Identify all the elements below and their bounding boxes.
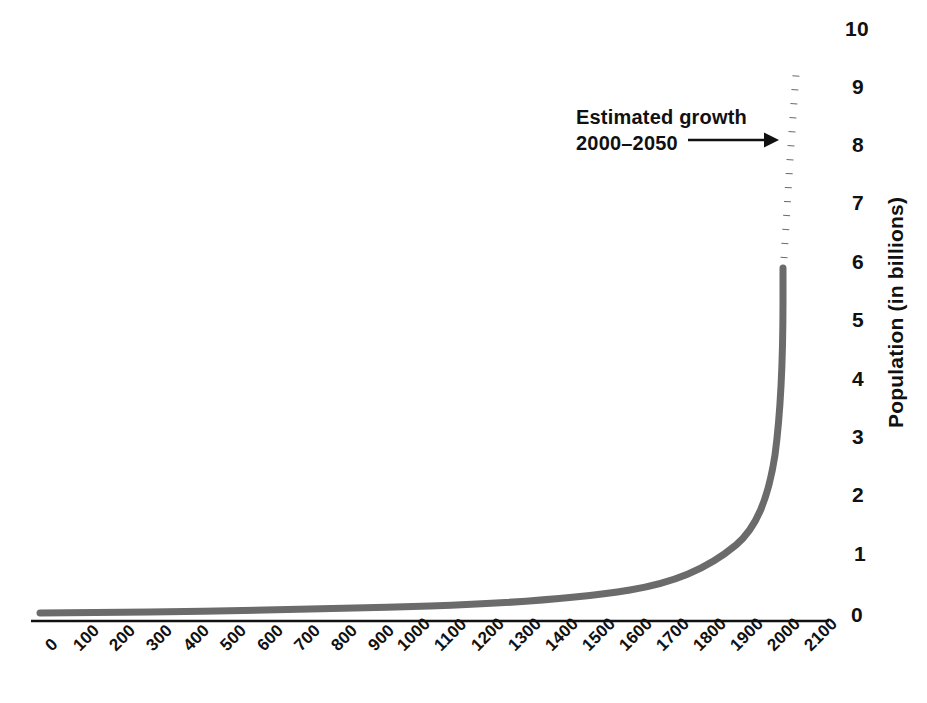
y-tick-9: 9 [852,76,864,97]
y-axis-title: Population (in billions) [884,178,910,428]
annotation-line-2: 2000–2050 [576,130,747,156]
y-tick-10: 10 [845,18,869,39]
y-tick-1: 1 [854,543,866,564]
y-tick-2: 2 [852,484,864,505]
y-tick-3: 3 [852,426,864,447]
y-tick-5: 5 [852,309,864,330]
annotation-line-1: Estimated growth [576,106,747,128]
y-tick-8: 8 [852,134,864,155]
population-curve-solid [40,268,783,613]
chart-plot-area [0,0,927,703]
population-growth-chart: 10 9 8 7 6 5 4 3 2 1 0 Population (in bi… [0,0,927,703]
population-curve-dotted-estimate [784,74,796,258]
y-tick-0: 0 [851,604,863,625]
y-tick-4: 4 [852,368,864,389]
y-tick-7: 7 [852,192,864,213]
y-tick-6: 6 [852,251,864,272]
estimated-growth-annotation: Estimated growth 2000–2050 [576,104,747,156]
